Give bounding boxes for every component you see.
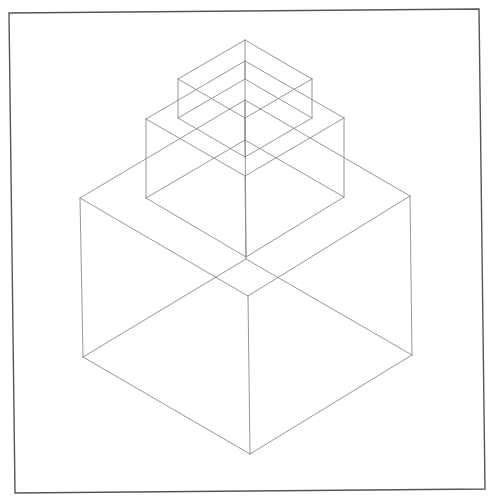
box-edge [245,100,410,196]
box-edge [80,198,83,357]
box-edge [245,100,246,259]
box-edge [246,259,412,355]
box-edge [80,198,248,296]
box-edge [245,40,312,79]
box-edge [83,357,250,454]
box-edge [178,118,245,157]
box-edge [245,118,312,157]
box-edge [146,198,246,257]
box-edge [248,296,250,454]
box-edge [80,100,245,198]
box-edge [248,196,410,296]
wireframe-boxes [80,40,412,454]
box-edge [178,40,245,79]
box-edge [146,140,245,198]
box-edge [245,118,344,176]
box-edge [410,196,412,355]
box-edge [146,119,245,176]
isometric-drawing [0,0,493,499]
box-edge [146,61,245,119]
box-edge [250,355,412,454]
bottom-box [80,100,412,454]
box-edge [83,259,246,357]
box-edge [246,197,344,257]
drawing-frame [9,9,485,493]
